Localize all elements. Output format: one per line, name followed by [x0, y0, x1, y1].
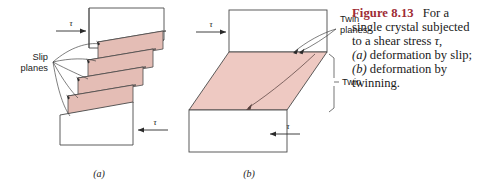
panel-a-top-tau-label: τ	[69, 18, 73, 28]
panel-b-bottom-block	[189, 110, 287, 152]
figure-caption: Figure 8.13For a single crystal subjecte…	[352, 6, 502, 91]
panel-a-sublabel: (a)	[93, 168, 105, 180]
caption-line-6: twinning.	[352, 76, 502, 90]
panel-b-group: τ τ Twin planes	[189, 10, 368, 180]
caption-part-b-marker: (b)	[352, 62, 367, 76]
figure-page: τ τ Slip planes	[0, 0, 504, 188]
caption-line-1: Figure 8.13For a	[352, 6, 502, 20]
panel-b-top-shear-arrow	[196, 30, 226, 35]
caption-line-1-text: For a	[423, 6, 449, 20]
caption-line-3-post: ,	[439, 34, 442, 48]
panel-a-group: τ τ Slip planes	[21, 8, 168, 180]
panel-a-top-shear-arrow	[56, 29, 86, 34]
caption-line-3-pre: to a shear stress	[352, 34, 435, 48]
caption-line-4: (a) deformation by slip;	[352, 48, 502, 62]
caption-line-5-text: deformation by	[367, 62, 447, 76]
panel-a-bottom-shear-arrow	[138, 128, 168, 133]
caption-line-5: (b) deformation by	[352, 62, 502, 76]
twin-extent-bracket	[329, 54, 339, 112]
panel-b-top-tau-label: τ	[209, 19, 213, 29]
caption-line-2: single crystal subjected	[352, 20, 502, 34]
panel-b-sublabel: (b)	[243, 168, 255, 180]
panel-a-bottom-tau-label: τ	[153, 117, 157, 127]
caption-line-3: to a shear stress τ,	[352, 34, 502, 48]
caption-line-4-text: deformation by slip;	[367, 48, 472, 62]
slip-planes-label-line1: Slip	[32, 52, 48, 62]
caption-figure-number: Figure 8.13	[352, 6, 414, 20]
slip-planes-label-line2: planes	[21, 63, 49, 73]
panel-b-bottom-tau-label: τ	[286, 121, 290, 131]
caption-part-a-marker: (a)	[352, 48, 367, 62]
